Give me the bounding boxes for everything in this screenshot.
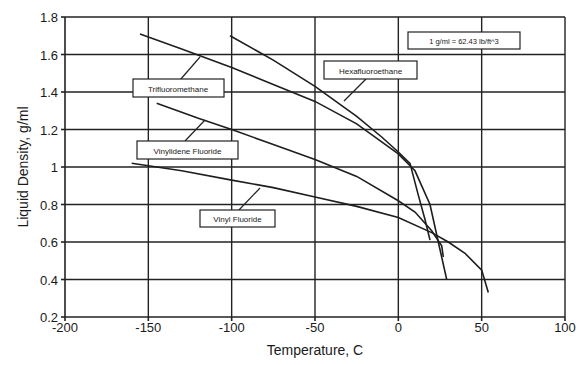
x-tick-label: 50 [474,320,488,335]
x-tick-label: -100 [219,320,245,335]
y-tick-label: 1 [51,160,58,175]
y-tick-label: 0.6 [40,235,58,250]
conversion-note: 1 g/ml = 62.43 lb/ft^3 [429,37,499,46]
y-tick-label: 1.6 [40,48,58,63]
y-tick-label: 1.2 [40,123,58,138]
x-tick-label: -150 [135,320,161,335]
axis-ticks: -200-150-100-500501000.20.40.60.811.21.4… [40,10,576,335]
liquid-density-chart: -200-150-100-500501000.20.40.60.811.21.4… [0,0,586,365]
x-axis-label: Temperature, C [267,342,363,358]
hexafluoroethane-label: Hexafluoroethane [339,67,403,76]
y-tick-label: 0.4 [40,273,58,288]
y-axis-label: Liquid Density, g/ml [15,106,31,227]
vinylidene-fluoride-label: Vinylidene Fluoride [154,147,222,156]
x-tick-label: 0 [395,320,402,335]
y-tick-label: 1.8 [40,10,58,25]
y-tick-label: 0.2 [40,310,58,325]
x-tick-label: 100 [554,320,576,335]
grid-lines [65,17,565,317]
y-tick-label: 1.4 [40,85,58,100]
x-tick-label: -50 [306,320,325,335]
data-curves [132,34,489,293]
vinyl-fluoride-label: Vinyl Fluoride [213,215,262,224]
y-tick-label: 0.8 [40,198,58,213]
trifluoromethane-label: Trifluoromethane [148,85,209,94]
